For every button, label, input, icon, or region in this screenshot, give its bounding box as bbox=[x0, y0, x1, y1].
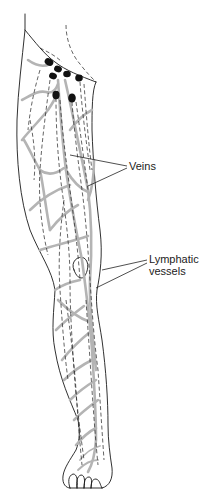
veins-label: Veins bbox=[129, 160, 156, 172]
lymph-node bbox=[75, 75, 83, 82]
lymph-node bbox=[48, 72, 58, 81]
lymphatic-label-line1: Lymphatic bbox=[149, 253, 199, 265]
veins-leader-1 bbox=[70, 155, 127, 166]
lymph-nodes bbox=[43, 57, 82, 103]
lymphatic-vessels-label: Lymphatic vessels bbox=[149, 253, 199, 277]
lymph-node bbox=[68, 94, 76, 103]
leg-illustration bbox=[0, 0, 210, 496]
lymph-leader-2 bbox=[96, 263, 147, 288]
lymph-node bbox=[63, 71, 71, 77]
leader-lines bbox=[70, 155, 147, 288]
lymph-node bbox=[52, 91, 59, 99]
leg-outline bbox=[17, 14, 112, 488]
lymph-leader-1 bbox=[102, 260, 147, 270]
lymphatic-label-line2: vessels bbox=[149, 265, 199, 277]
veins-network bbox=[22, 60, 100, 472]
